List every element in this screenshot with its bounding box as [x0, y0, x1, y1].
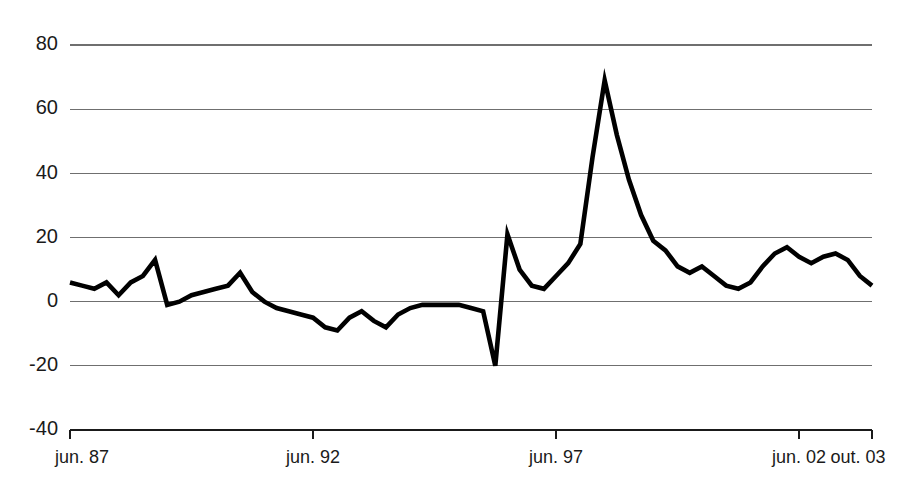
y-tick-labels-group: 806040200-20-40 [29, 32, 58, 439]
x-axis-group [70, 430, 872, 439]
y-tick-label: 80 [36, 32, 58, 54]
y-tick-label: 20 [36, 225, 58, 247]
y-tick-label: -40 [29, 417, 58, 439]
y-tick-label: -20 [29, 353, 58, 375]
x-tick-label: out. 03 [830, 447, 885, 467]
y-tick-label: 40 [36, 161, 58, 183]
x-tick-label: jun. 87 [54, 447, 109, 467]
x-tick-labels-group: jun. 87jun. 92jun. 97jun. 02out. 03 [54, 447, 886, 467]
x-tick-label: jun. 02 [771, 447, 826, 467]
y-tick-label: 0 [47, 289, 58, 311]
x-tick-label: jun. 92 [285, 447, 340, 467]
data-line-series-1 [70, 80, 872, 366]
data-series-group [70, 80, 872, 366]
gridlines-group [70, 45, 872, 366]
line-chart: 806040200-20-40 jun. 87jun. 92jun. 97jun… [0, 0, 912, 489]
x-tick-label: jun. 97 [528, 447, 583, 467]
chart-container: 806040200-20-40 jun. 87jun. 92jun. 97jun… [0, 0, 912, 489]
y-tick-label: 60 [36, 96, 58, 118]
